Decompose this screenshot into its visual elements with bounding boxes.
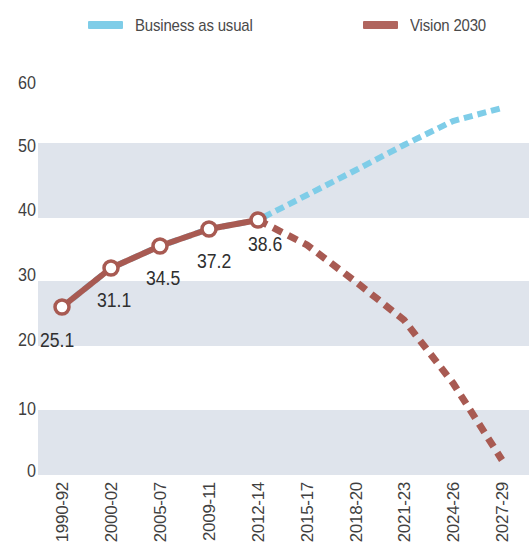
data-label-1990-92: 25.1 [40,330,74,350]
x-tick-2009-11: 2009-11 [201,482,218,541]
data-label-2009-11: 37.2 [197,251,231,271]
y-tick-40: 40 [7,200,36,219]
data-label-2012-14: 38.6 [248,234,282,254]
y-tick-50: 50 [7,136,36,155]
chart-root: Business as usual Vision 2030 [0,0,529,555]
y-tick-60: 60 [7,73,36,92]
x-tick-2000-02: 2000-02 [103,482,120,542]
y-tick-0: 0 [7,461,36,480]
y-tick-20: 20 [7,330,36,349]
x-tick-2024-26: 2024-26 [445,482,462,542]
y-tick-10: 10 [7,399,36,418]
data-label-2000-02: 31.1 [97,290,131,310]
plot-canvas [0,0,529,555]
y-tick-30: 30 [7,265,36,284]
x-tick-1990-92: 1990-92 [54,482,71,542]
plot-area [0,0,529,555]
y-axis: 60 50 40 30 20 10 0 [0,0,36,555]
x-axis: 1990-92 2000-02 2005-07 2009-11 2012-14 … [0,482,529,555]
x-tick-2021-23: 2021-23 [396,482,413,542]
x-tick-2027-29: 2027-29 [494,482,511,542]
x-tick-2015-17: 2015-17 [299,482,316,542]
x-tick-2018-20: 2018-20 [348,482,365,542]
data-label-2005-07: 34.5 [146,268,180,288]
x-tick-2012-14: 2012-14 [250,482,267,542]
x-tick-2005-07: 2005-07 [152,482,169,542]
